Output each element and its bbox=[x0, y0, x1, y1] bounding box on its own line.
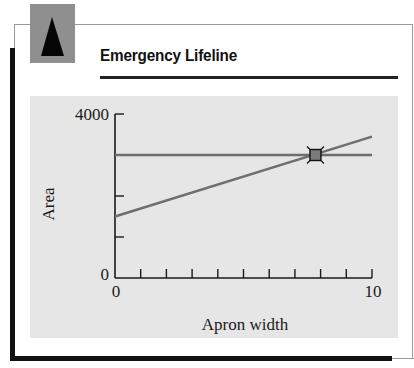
frame-bottom-border bbox=[392, 358, 414, 359]
intersection-marker bbox=[310, 150, 321, 161]
chart-annotations bbox=[307, 147, 324, 164]
x-tick-label: 10 bbox=[365, 282, 382, 301]
title-underline bbox=[100, 76, 398, 79]
frame-left-bar bbox=[10, 48, 15, 361]
chart-series bbox=[115, 137, 372, 217]
x-axis-label: Apron width bbox=[202, 315, 289, 334]
marker-corner bbox=[321, 147, 324, 150]
line-chart: 40000010 Area Apron width bbox=[30, 96, 398, 338]
chart-panel: 40000010 Area Apron width bbox=[30, 96, 398, 338]
frame-right-border bbox=[412, 24, 413, 358]
frame-left-border bbox=[14, 24, 15, 50]
series-line bbox=[115, 137, 372, 217]
y-tick-label: 4000 bbox=[75, 105, 109, 124]
marker-corner bbox=[307, 161, 310, 164]
triangle-icon bbox=[30, 4, 75, 63]
y-tick-label: 0 bbox=[101, 265, 110, 284]
x-tick-label: 0 bbox=[112, 282, 121, 301]
page-title: Emergency Lifeline bbox=[100, 46, 237, 66]
y-axis-label: Area bbox=[39, 187, 58, 220]
section-icon-box bbox=[30, 4, 75, 63]
chart-axes: 40000010 bbox=[75, 105, 382, 301]
marker-corner bbox=[321, 161, 324, 164]
marker-corner bbox=[307, 147, 310, 150]
frame-bottom-bar bbox=[12, 356, 392, 361]
